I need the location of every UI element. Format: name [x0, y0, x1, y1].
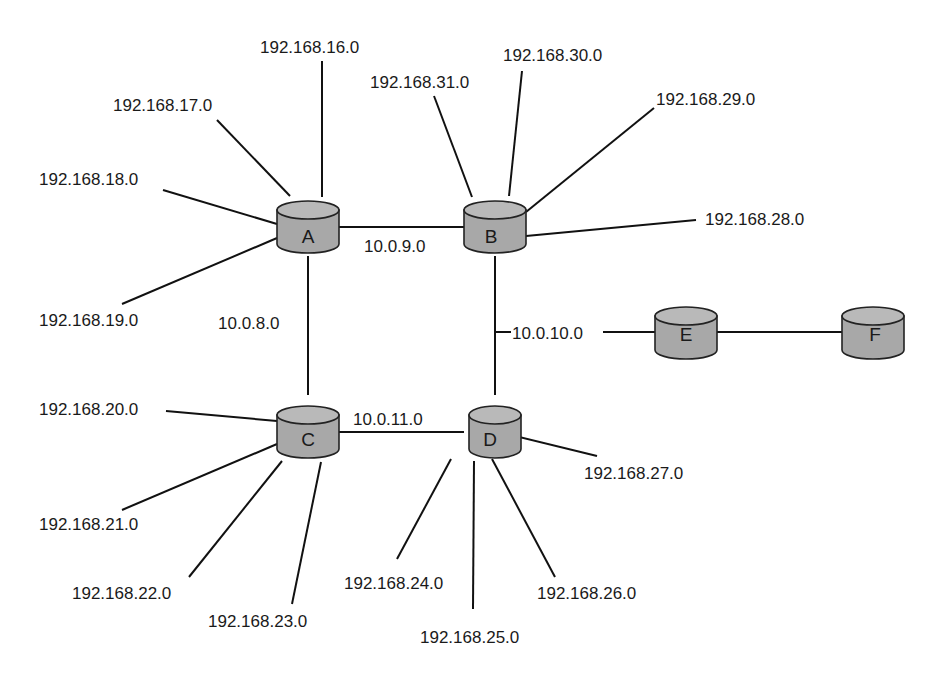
- stub-link-192-168-31: [434, 96, 472, 197]
- stub-link-192-168-22: [189, 461, 282, 577]
- router-b: B: [464, 201, 526, 253]
- stub-link-192-168-28: [526, 220, 696, 236]
- router-c: C: [277, 406, 339, 458]
- stub-link-192-168-21: [122, 444, 277, 510]
- net-label-192-168-23: 192.168.23.0: [208, 612, 307, 631]
- net-label-192-168-16: 192.168.16.0: [260, 38, 359, 57]
- stub-link-192-168-24: [397, 459, 451, 559]
- net-label-192-168-21: 192.168.21.0: [39, 515, 138, 534]
- net-label-192-168-22: 192.168.22.0: [72, 584, 171, 603]
- net-label-192-168-26: 192.168.26.0: [537, 584, 636, 603]
- net-label-a-c: 10.0.8.0: [218, 314, 279, 333]
- router-label: F: [869, 324, 881, 345]
- router-label: E: [680, 324, 693, 345]
- router-e: E: [655, 307, 717, 359]
- stub-link-192-168-17: [217, 120, 290, 196]
- stub-link-192-168-19: [122, 238, 277, 304]
- stub-link-192-168-29: [526, 108, 654, 212]
- net-label-192-168-28: 192.168.28.0: [705, 210, 804, 229]
- stub-link-192-168-26: [492, 459, 555, 577]
- router-label: B: [485, 226, 498, 247]
- stub-link-192-168-30: [509, 71, 522, 196]
- router-label: D: [483, 429, 497, 450]
- net-label-192-168-18: 192.168.18.0: [39, 170, 138, 189]
- network-diagram: A B C D E F 10.0.9.0 10.0.8.0 10.0.10.0 …: [0, 0, 944, 679]
- stub-link-192-168-20: [166, 411, 277, 421]
- net-label-192-168-17: 192.168.17.0: [113, 96, 212, 115]
- stub-link-192-168-25: [473, 461, 474, 609]
- net-label-192-168-31: 192.168.31.0: [370, 73, 469, 92]
- net-label-192-168-25: 192.168.25.0: [420, 628, 519, 647]
- net-label-c-d: 10.0.11.0: [353, 410, 423, 429]
- net-label-b-d: 10.0.10.0: [512, 324, 583, 343]
- router-label: C: [301, 429, 315, 450]
- net-label-192-168-27: 192.168.27.0: [584, 464, 683, 483]
- stub-link-192-168-18: [163, 190, 277, 224]
- router-d: D: [469, 406, 521, 458]
- net-label-192-168-19: 192.168.19.0: [39, 311, 138, 330]
- router-a: A: [277, 201, 339, 253]
- net-label-192-168-30: 192.168.30.0: [503, 46, 602, 65]
- router-f: F: [842, 307, 904, 359]
- stub-link-192-168-23: [292, 462, 321, 604]
- stub-links: [122, 61, 696, 609]
- net-label-192-168-20: 192.168.20.0: [39, 400, 138, 419]
- router-label: A: [302, 226, 315, 247]
- net-label-192-168-24: 192.168.24.0: [344, 574, 443, 593]
- net-label-192-168-29: 192.168.29.0: [656, 90, 755, 109]
- net-label-a-b: 10.0.9.0: [364, 237, 425, 256]
